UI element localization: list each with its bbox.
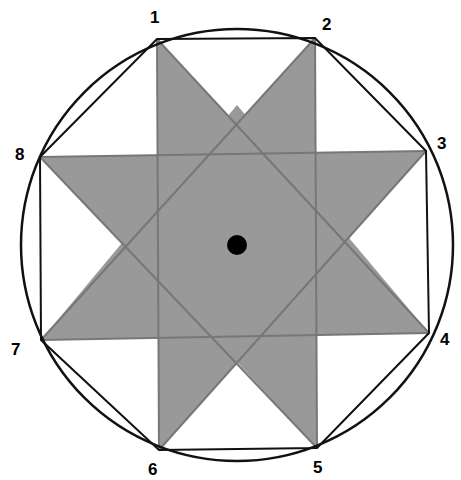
vertex-label-3: 3 — [437, 134, 446, 153]
vertex-label-5: 5 — [313, 458, 322, 477]
center-dot — [227, 235, 247, 255]
vertex-label-1: 1 — [150, 8, 159, 27]
triangle-7-4 — [41, 105, 429, 340]
vertex-label-7: 7 — [11, 340, 20, 359]
octagram-diagram: 12345678 — [0, 0, 461, 480]
vertex-label-6: 6 — [148, 460, 157, 479]
vertex-label-2: 2 — [322, 15, 331, 34]
vertex-label-4: 4 — [440, 330, 450, 349]
vertex-label-8: 8 — [15, 145, 24, 164]
